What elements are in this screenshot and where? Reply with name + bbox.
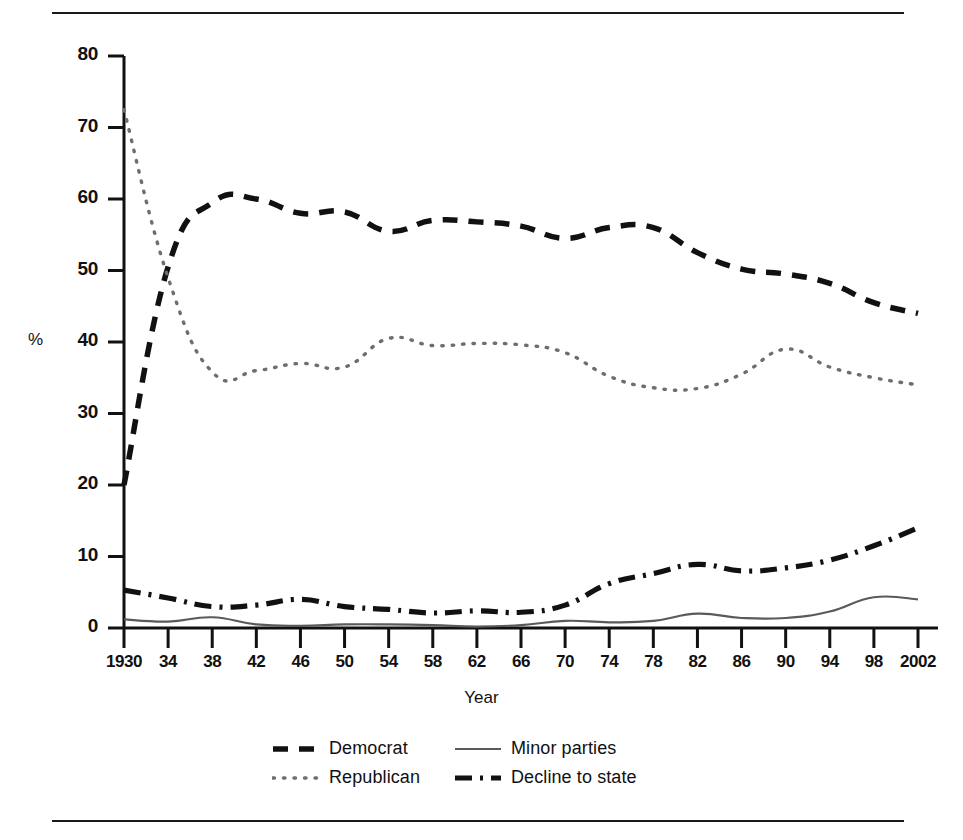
- x-tick-marks: [124, 628, 918, 648]
- x-tick-label: 62: [468, 652, 486, 672]
- y-tick-label: 60: [52, 186, 98, 208]
- x-tick-label: 38: [203, 652, 221, 672]
- legend-label: Republican: [329, 767, 420, 788]
- x-tick-label: 94: [821, 652, 839, 672]
- x-tick-label: 46: [291, 652, 309, 672]
- series-line-democrat: [124, 194, 918, 485]
- x-tick-label: 42: [247, 652, 265, 672]
- legend-swatch-dotted-icon: [272, 771, 320, 785]
- axis-group: [108, 56, 938, 648]
- y-tick-label: 80: [52, 43, 98, 65]
- x-tick-label: 98: [865, 652, 883, 672]
- legend-label: Decline to state: [511, 767, 637, 788]
- legend-label: Democrat: [329, 738, 408, 759]
- y-axis-label: %: [28, 330, 43, 350]
- y-tick-label: 70: [52, 115, 98, 137]
- x-tick-label: 78: [644, 652, 662, 672]
- x-tick-label: 54: [380, 652, 398, 672]
- legend-item-minor-parties[interactable]: Minor parties: [454, 738, 686, 759]
- legend-swatch-dashed-icon: [272, 742, 320, 756]
- x-tick-label: 74: [600, 652, 618, 672]
- y-tick-label: 0: [52, 615, 98, 637]
- y-tick-label: 40: [52, 329, 98, 351]
- legend-item-decline-to-state[interactable]: Decline to state: [454, 767, 686, 788]
- x-tick-label: 34: [159, 652, 177, 672]
- legend-item-republican[interactable]: Republican: [272, 767, 454, 788]
- x-axis-label: Year: [0, 688, 963, 708]
- x-tick-label: 58: [424, 652, 442, 672]
- x-tick-label: 90: [777, 652, 795, 672]
- series-line-republican: [124, 110, 918, 391]
- x-tick-label: 70: [556, 652, 574, 672]
- x-tick-label: 2002: [900, 652, 936, 672]
- x-tick-label: 1930: [106, 652, 142, 672]
- series-group: [124, 110, 918, 627]
- legend-label: Minor parties: [511, 738, 616, 759]
- y-tick-label: 10: [52, 544, 98, 566]
- y-tick-label: 30: [52, 401, 98, 423]
- chart-legend: DemocratMinor partiesRepublicanDecline t…: [272, 734, 742, 792]
- y-tick-label: 50: [52, 258, 98, 280]
- figure-panel: 01020304050607080 1930343842465054586266…: [0, 0, 963, 840]
- x-tick-label: 82: [688, 652, 706, 672]
- line-chart: [0, 0, 963, 840]
- y-tick-marks: [108, 56, 124, 628]
- series-line-decline-to-state: [124, 528, 918, 613]
- legend-swatch-solid-icon: [454, 742, 502, 756]
- legend-item-democrat[interactable]: Democrat: [272, 738, 454, 759]
- x-tick-label: 50: [335, 652, 353, 672]
- x-tick-label: 66: [512, 652, 530, 672]
- x-tick-label: 86: [732, 652, 750, 672]
- y-tick-label: 20: [52, 472, 98, 494]
- legend-swatch-dashdot-icon: [454, 771, 502, 785]
